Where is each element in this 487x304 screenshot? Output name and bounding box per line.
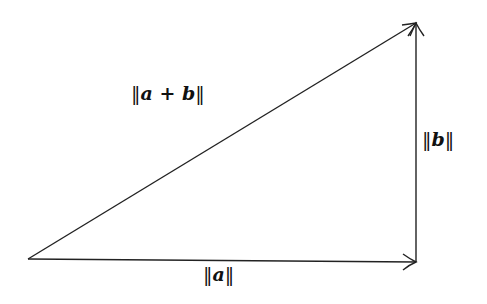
norm-bars-right: ‖	[225, 263, 235, 285]
norm-bars-right: ‖	[195, 82, 205, 104]
vector-triangle-diagram	[0, 0, 487, 304]
b-text: b	[432, 128, 445, 150]
sum-text: a + b	[141, 82, 196, 104]
label-sum-norm: ‖a + b‖	[131, 82, 205, 104]
norm-bars-left: ‖	[131, 82, 141, 104]
label-b-norm: ‖b‖	[422, 128, 454, 150]
norm-bars-left: ‖	[203, 263, 213, 285]
norm-bars-left: ‖	[422, 128, 432, 150]
vector-sum-arrow	[28, 23, 416, 259]
a-text: a	[213, 263, 225, 285]
label-a-norm: ‖a‖	[203, 263, 234, 285]
norm-bars-right: ‖	[445, 128, 455, 150]
